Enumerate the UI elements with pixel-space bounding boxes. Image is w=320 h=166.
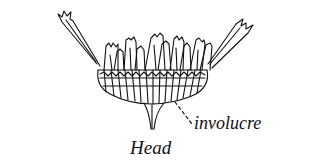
left-ray-floret — [58, 11, 100, 66]
involucre-leader-line — [175, 102, 192, 124]
involucre-bracts — [98, 70, 208, 104]
disc-florets — [104, 33, 212, 70]
figure-caption: Head — [130, 137, 171, 159]
involucre-label: involucre — [194, 113, 261, 134]
right-ray-floret — [208, 19, 253, 68]
stalk — [144, 103, 164, 129]
